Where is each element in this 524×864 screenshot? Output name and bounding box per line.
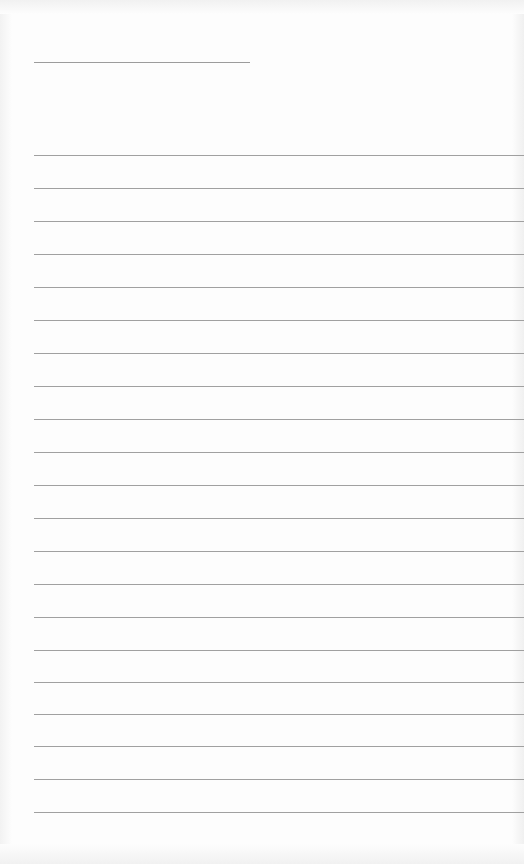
ruled-line [34, 419, 524, 420]
ruled-line [34, 188, 524, 189]
ruled-line [34, 779, 524, 780]
ruled-line [34, 812, 524, 813]
ruled-line [34, 485, 524, 486]
ruled-line [34, 650, 524, 651]
ruled-lines-area [34, 0, 524, 864]
ruled-line [34, 584, 524, 585]
scan-bottom-edge [0, 844, 524, 864]
lined-paper-page [0, 0, 524, 864]
ruled-line [34, 320, 524, 321]
ruled-line [34, 452, 524, 453]
ruled-line [34, 353, 524, 354]
ruled-line [34, 518, 524, 519]
ruled-line [34, 287, 524, 288]
ruled-line [34, 714, 524, 715]
ruled-line [34, 551, 524, 552]
ruled-line [34, 386, 524, 387]
ruled-line [34, 682, 524, 683]
ruled-line [34, 254, 524, 255]
ruled-line [34, 155, 524, 156]
ruled-line [34, 617, 524, 618]
ruled-line [34, 221, 524, 222]
ruled-line [34, 746, 524, 747]
